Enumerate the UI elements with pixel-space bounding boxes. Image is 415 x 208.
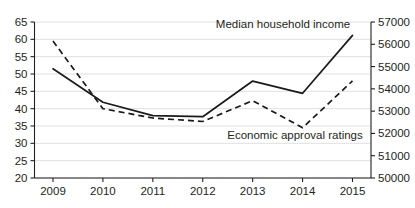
chart-canvas: 20253035404550556065 5000051000520005300… bbox=[0, 0, 415, 208]
x-axis-tick-label: 2015 bbox=[340, 185, 366, 197]
left-axis-tick-label: 60 bbox=[15, 33, 28, 45]
x-axis-ticks bbox=[53, 178, 353, 182]
line-chart: 20253035404550556065 5000051000520005300… bbox=[0, 0, 415, 208]
x-axis-tick-label: 2009 bbox=[40, 185, 66, 197]
right-axis-tick-label: 56000 bbox=[378, 38, 410, 50]
x-axis-tick-label: 2011 bbox=[140, 185, 165, 197]
left-axis-labels: 20253035404550556065 bbox=[15, 16, 28, 184]
right-axis-tick-label: 53000 bbox=[378, 105, 410, 117]
right-axis-ticks bbox=[371, 22, 375, 178]
right-axis-labels: 5000051000520005300054000550005600057000 bbox=[378, 16, 410, 184]
left-axis-ticks bbox=[31, 22, 35, 178]
x-axis-tick-label: 2010 bbox=[90, 185, 116, 197]
left-axis-tick-label: 45 bbox=[15, 85, 28, 97]
right-axis-tick-label: 51000 bbox=[378, 150, 410, 162]
series-median-household-income bbox=[53, 35, 353, 116]
series-annotations: Median household incomeEconomic approval… bbox=[216, 18, 363, 141]
series-annotation-label: Median household income bbox=[216, 18, 350, 30]
right-axis-tick-label: 57000 bbox=[378, 16, 410, 28]
right-axis-tick-label: 52000 bbox=[378, 127, 410, 139]
left-axis-tick-label: 35 bbox=[15, 120, 28, 132]
left-axis-tick-label: 30 bbox=[15, 137, 28, 149]
x-axis-tick-label: 2014 bbox=[290, 185, 316, 197]
left-axis-tick-label: 20 bbox=[15, 172, 28, 184]
series-annotation-label: Economic approval ratings bbox=[227, 129, 363, 141]
gridlines bbox=[35, 22, 372, 178]
left-axis-tick-label: 40 bbox=[15, 103, 28, 115]
left-axis-tick-label: 50 bbox=[15, 68, 28, 80]
x-axis-tick-label: 2012 bbox=[190, 185, 216, 197]
right-axis-tick-label: 54000 bbox=[378, 83, 410, 95]
left-axis-tick-label: 55 bbox=[15, 51, 28, 63]
right-axis-tick-label: 55000 bbox=[378, 61, 410, 73]
x-axis-labels: 2009201020112012201320142015 bbox=[40, 185, 365, 197]
left-axis-tick-label: 25 bbox=[15, 155, 28, 167]
x-axis-tick-label: 2013 bbox=[240, 185, 266, 197]
series-economic-approval-ratings bbox=[53, 41, 353, 128]
left-axis-tick-label: 65 bbox=[15, 16, 28, 28]
right-axis-tick-label: 50000 bbox=[378, 172, 410, 184]
